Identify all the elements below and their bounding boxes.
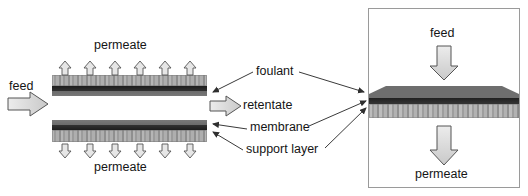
permeate-arrows-top bbox=[59, 61, 196, 75]
support-layer-label: support layer bbox=[246, 143, 318, 156]
feed-arrow-right bbox=[430, 46, 458, 80]
foulant-label: foulant bbox=[256, 65, 294, 78]
retentate-label: retentate bbox=[243, 99, 292, 112]
membrane-label: membrane bbox=[250, 121, 310, 134]
permeate-arrow-right bbox=[430, 126, 458, 165]
feed-label-left: feed bbox=[9, 80, 33, 93]
permeate-bottom-label: permeate bbox=[94, 161, 147, 174]
permeate-top-label: permeate bbox=[94, 39, 147, 52]
retentate-arrow bbox=[210, 96, 241, 116]
feed-label-right: feed bbox=[430, 27, 454, 40]
permeate-label-right: permeate bbox=[415, 168, 468, 181]
feed-arrow-left bbox=[8, 92, 48, 116]
permeate-arrows-bottom bbox=[59, 144, 196, 158]
figure-canvas: permeate permeate feed retentate foulant… bbox=[0, 0, 528, 196]
